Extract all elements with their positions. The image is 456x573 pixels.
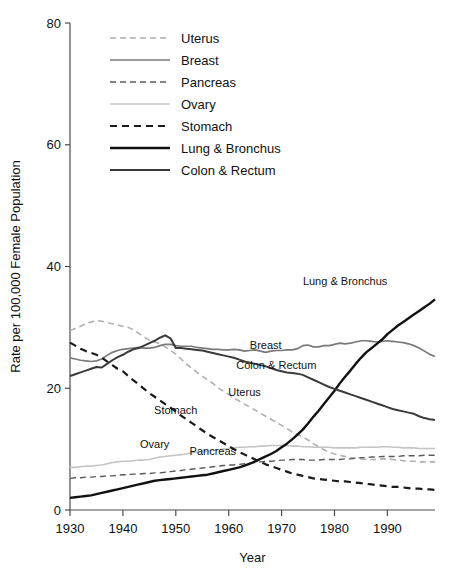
chart-canvas: 0204060801930194019501960197019801990 Ut…	[0, 0, 456, 573]
cancer-mortality-line-chart: 0204060801930194019501960197019801990 Ut…	[0, 0, 456, 573]
x-tick-label-1950: 1950	[161, 521, 190, 536]
series-label-group: UterusBreastPancreasOvaryStomachLung & B…	[140, 275, 388, 457]
x-axis-title: Year	[239, 550, 266, 565]
legend-label-uterus: Uterus	[181, 31, 220, 46]
x-tick-label-1930: 1930	[56, 521, 85, 536]
series-annotation-colon-rectum: Colon & Rectum	[236, 359, 316, 371]
y-tick-label-20: 20	[47, 381, 61, 396]
y-tick-label-80: 80	[47, 16, 61, 31]
x-tick-label-1990: 1990	[373, 521, 402, 536]
x-tick-label-1960: 1960	[214, 521, 243, 536]
legend-label-lung-bronchus: Lung & Bronchus	[181, 141, 281, 156]
x-tick-label-1980: 1980	[320, 521, 349, 536]
series-annotation-pancreas: Pancreas	[190, 445, 237, 457]
legend-label-breast: Breast	[181, 53, 219, 68]
chart-legend: UterusBreastPancreasOvaryStomachLung & B…	[110, 31, 281, 178]
y-tick-label-0: 0	[54, 503, 61, 518]
y-tick-label-40: 40	[47, 259, 61, 274]
series-annotation-ovary: Ovary	[140, 438, 170, 450]
legend-label-ovary: Ovary	[181, 97, 216, 112]
series-annotation-stomach: Stomach	[154, 404, 197, 416]
axis-lines	[70, 23, 435, 510]
y-axis-title: Rate per 100,000 Female Population	[8, 160, 23, 372]
x-tick-label-1940: 1940	[108, 521, 137, 536]
legend-label-pancreas: Pancreas	[181, 75, 236, 90]
series-line-lung-bronchus	[70, 299, 435, 497]
legend-label-stomach: Stomach	[181, 119, 232, 134]
series-annotation-uterus: Uterus	[228, 386, 261, 398]
y-tick-label-60: 60	[47, 137, 61, 152]
series-annotation-lung-bronchus: Lung & Bronchus	[303, 275, 388, 287]
series-annotation-breast: Breast	[250, 339, 282, 351]
legend-label-colon-rectum: Colon & Rectum	[181, 163, 276, 178]
axis-titles-group: YearRate per 100,000 Female Population	[8, 160, 266, 565]
x-tick-label-1970: 1970	[267, 521, 296, 536]
series-group	[70, 299, 435, 497]
